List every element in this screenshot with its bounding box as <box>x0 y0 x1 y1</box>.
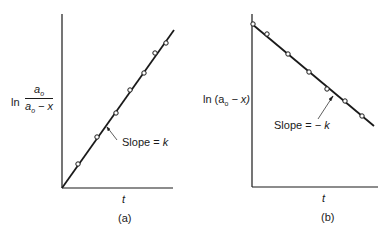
equals-sign: = <box>305 119 311 131</box>
panel-b-ylabel-prefix: ln (a <box>203 93 224 105</box>
panel-a-ylabel-prefix: ln <box>11 96 20 108</box>
slope-text: Slope <box>274 119 302 131</box>
panel-b-xlabel: t <box>322 192 325 204</box>
equals-sign: = <box>153 136 159 148</box>
panel-b-slope-annotation: Slope = − k <box>274 119 330 131</box>
panel-a-xlabel: t <box>122 193 125 205</box>
plots-canvas <box>0 0 390 239</box>
subscript: o <box>31 107 35 114</box>
slope-value: k <box>163 136 169 148</box>
panel-a-ylabel-denominator-suffix: − x <box>38 100 53 112</box>
subscript: o <box>224 100 228 107</box>
panel-a-ylabel-fraction: ao ao − x <box>25 83 53 114</box>
slope-value: − k <box>315 119 330 131</box>
panel-a-slope-annotation: Slope = k <box>122 136 168 148</box>
panel-b-ylabel: ln (ao − x) <box>203 93 250 107</box>
subscript: o <box>40 90 44 97</box>
panel-b-plot <box>251 14 378 187</box>
panel-b-ylabel-suffix: − x) <box>231 93 250 105</box>
panel-b-fit-line <box>252 24 374 126</box>
panel-a-plot <box>62 14 174 188</box>
panel-b-label: (b) <box>321 211 334 223</box>
slope-text: Slope <box>122 136 150 148</box>
panel-a-label: (a) <box>118 212 131 224</box>
